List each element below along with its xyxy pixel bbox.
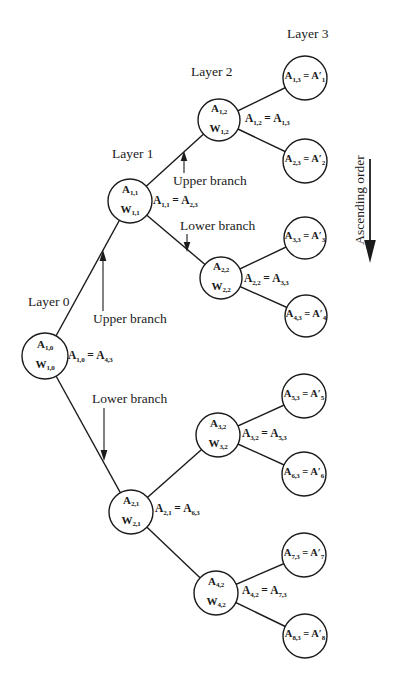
node-a4_2-w: W4,2 (206, 593, 225, 613)
binary-tree-diagram: Layer 0 Layer 1 Layer 2 Layer 3 A1,0 W1,… (0, 0, 398, 684)
node-a1_1-a: A1,1 (120, 182, 139, 202)
leaf-6-label: A6,3 = A′6 (284, 466, 324, 482)
layer-3-label: Layer 3 (287, 26, 329, 41)
tree-svg (0, 0, 398, 684)
node-a1_2-label: A1,2 W1,2 (209, 101, 228, 140)
lower-branch-label-layer0: Lower branch (92, 392, 167, 406)
node-a2_2-a: A2,2 (211, 259, 230, 279)
leaf-3-label: A3,3 = A′3 (285, 230, 325, 246)
node-a1_1-label: A1,1 W1,1 (120, 182, 139, 221)
node-a4_2-label: A4,2 W4,2 (206, 574, 225, 613)
node-a2_2-w: W2,2 (211, 278, 230, 298)
equation-a2_2: A2,2 = A3,3 (244, 272, 289, 290)
edge-a1_0-a1_1 (45, 201, 130, 356)
leaf-1-label: A1,3 = A′1 (285, 70, 325, 86)
upper-branch-arrow-layer0 (100, 250, 107, 311)
node-a3_2-label: A3,2 W3,2 (208, 416, 227, 455)
upper-branch-label-layer0: Upper branch (93, 312, 167, 326)
node-a1_0-a: A1,0 (35, 337, 54, 357)
leaf-8-label: A8,3 = A′8 (285, 628, 325, 644)
equation-a4_2: A4,2 = A7,3 (242, 584, 287, 602)
equation-a1_1: A1,1 = A2,3 (153, 194, 198, 212)
node-a1_2-w: W1,2 (209, 120, 228, 140)
leaf-5-label: A5,3 = A′5 (284, 388, 324, 404)
equation-a3_2: A3,2 = A5,3 (242, 427, 287, 445)
equation-a2_1: A2,1 = A6,3 (155, 502, 200, 520)
upper-branch-label-layer1: Upper branch (173, 174, 247, 188)
node-a3_2-w: W3,2 (208, 435, 227, 455)
equation-a1_2: A1,2 = A1,3 (245, 112, 290, 130)
edge-a1_0-a2_1 (45, 356, 131, 512)
node-a1_0-label: A1,0 W1,0 (35, 337, 54, 376)
node-a2_1-w: W2,1 (121, 512, 140, 532)
node-a3_2-a: A3,2 (208, 416, 227, 436)
layer-0-label: Layer 0 (28, 294, 70, 309)
node-a2_1-label: A2,1 W2,1 (121, 493, 140, 532)
layer-2-label: Layer 2 (191, 64, 233, 79)
leaf-4-label: A4,3 = A′4 (286, 308, 326, 324)
equation-a1_0: A1,0 = A4,3 (68, 349, 113, 367)
lower-branch-arrow-layer0 (101, 408, 108, 461)
node-a4_2-a: A4,2 (206, 574, 225, 594)
node-a2_1-a: A2,1 (121, 493, 140, 513)
node-a2_2-label: A2,2 W2,2 (211, 259, 230, 298)
leaf-7-label: A7,3 = A′7 (284, 547, 324, 563)
node-a1_1-w: W1,1 (120, 201, 139, 221)
node-a1_0-w: W1,0 (35, 356, 54, 376)
leaf-2-label: A2,3 = A′2 (285, 153, 325, 169)
layer-1-label: Layer 1 (112, 146, 154, 161)
ascending-order-label: Ascending order (353, 150, 367, 250)
node-a1_2-a: A1,2 (209, 101, 228, 121)
lower-branch-label-layer1: Lower branch (180, 219, 255, 233)
lower-branch-arrow-layer1 (184, 234, 191, 252)
